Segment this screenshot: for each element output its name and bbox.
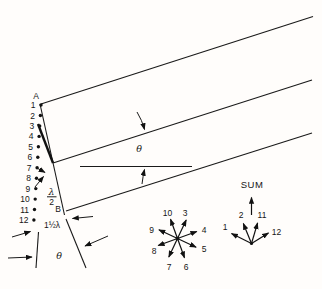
phasor-5-label: 5 [202,244,207,254]
wavefront-extension-line [66,219,86,268]
half-wave-numerator: λ [47,186,54,197]
sum-phasor-origin [250,242,253,245]
angle-theta-bottom-label: θ [56,250,62,261]
diffraction-diagram: θ A B 1 2 3 4 5 6 7 8 9 10 11 12 λ 2 1½λ… [0,0,322,289]
wavefront-extension-arrow [85,236,108,246]
source-dot-6 [36,156,39,159]
source-label-6: 6 [28,152,33,162]
slit-extension-line [36,232,39,268]
half-wave-arrow-upper [37,168,45,173]
source-dot-2 [39,114,42,117]
phasor-2-label: 2 [239,210,244,220]
star-phasor-diagram: 10 3 9 4 8 5 7 6 [149,208,207,272]
phasor-7-label: 7 [167,262,172,272]
sum-title-label: SUM [241,179,264,190]
source-label-5: 5 [28,142,33,152]
phasor-8-label: 8 [152,246,157,256]
angle-theta-mid-label: θ [136,143,142,154]
source-dot-3 [38,124,41,127]
phasor-3-label: 3 [183,208,188,218]
source-dot-5 [37,145,40,148]
source-label-8: 8 [26,173,31,183]
source-label-12: 12 [19,215,29,225]
sum-phasor-diagram: SUM 1 2 11 12 [223,179,282,245]
phasor-9-label: 9 [149,225,154,235]
path-diff-label: 1½λ [44,220,61,230]
angle-arc-arrow-upper [137,112,145,130]
half-wave-denominator: 2 [49,197,54,207]
diffraction-figure-svg: θ A B 1 2 3 4 5 6 7 8 9 10 11 12 λ 2 1½λ… [0,0,322,289]
ray-middle [53,80,312,163]
source-dot-12 [32,218,35,221]
source-label-4: 4 [29,131,34,141]
source-label-3: 3 [29,121,34,131]
slit-extension-arrow-upper [12,232,31,238]
source-label-10: 10 [20,194,30,204]
source-label-9: 9 [26,184,31,194]
source-dot-8 [35,177,38,180]
phasor-11-label: 11 [258,210,267,220]
point-b-label: B [55,204,61,214]
source-dot-11 [33,208,36,211]
phasor-10-label: 10 [163,208,173,218]
phasor-12-label: 12 [272,227,282,237]
slit-extension-arrow-lower [8,257,32,258]
angle-arc-arrow-lower [142,170,145,185]
source-label-1: 1 [31,100,36,110]
ray-bottom [66,133,312,211]
source-label-2: 2 [30,111,35,121]
source-dot-1 [39,103,42,106]
ray-top [41,17,313,105]
star-phasor-origin [176,237,180,241]
path-diff-arrow-at-b [73,217,94,219]
source-dot-4 [37,135,40,138]
phasor-1-label: 1 [223,222,228,232]
phasor-4-label: 4 [202,225,207,235]
source-dot-9 [34,187,37,190]
source-label-7: 7 [27,163,32,173]
source-label-11: 11 [20,205,29,215]
phasor-6-label: 6 [184,262,189,272]
source-dot-10 [34,197,37,200]
